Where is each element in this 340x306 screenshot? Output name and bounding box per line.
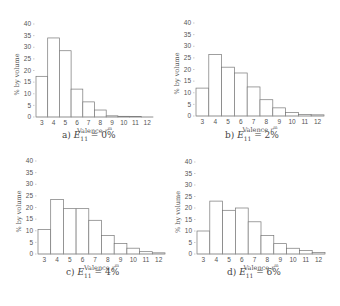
bar-12 <box>312 252 325 254</box>
caption-d: d) E11 = 6% <box>227 267 281 279</box>
x-tick-label: 9 <box>278 256 282 263</box>
x-tick-label: 11 <box>302 256 309 263</box>
x-tick-label: 6 <box>240 256 244 263</box>
x-tick-label: 8 <box>266 256 270 263</box>
bar-9 <box>274 244 287 254</box>
y-axis-label: % by volume <box>174 191 182 233</box>
bar-10 <box>287 248 300 254</box>
y-tick-label: 30 <box>185 181 193 188</box>
bar-4 <box>210 201 223 254</box>
x-tick-label: 12 <box>315 256 323 263</box>
x-tick-label: 7 <box>253 256 257 263</box>
bar-11 <box>299 251 312 254</box>
x-tick-label: 5 <box>227 256 231 263</box>
y-tick-label: 0 <box>188 250 192 257</box>
x-tick-label: 10 <box>289 256 297 263</box>
bar-8 <box>261 236 274 254</box>
y-tick-label: 40 <box>185 158 193 165</box>
x-tick-label: 4 <box>214 256 218 263</box>
y-tick-label: 35 <box>185 170 193 177</box>
y-tick-label: 5 <box>188 239 192 246</box>
bar-7 <box>248 222 261 254</box>
x-tick-label: 3 <box>202 256 206 263</box>
y-tick-label: 25 <box>185 193 193 200</box>
histogram-d: 0510152025303540% by volume3456789101112… <box>0 0 340 306</box>
bar-5 <box>223 210 236 254</box>
y-tick-label: 15 <box>185 216 193 223</box>
bar-3 <box>197 231 210 254</box>
y-tick-label: 10 <box>185 227 193 234</box>
y-tick-label: 20 <box>185 204 193 211</box>
bar-6 <box>235 208 248 254</box>
